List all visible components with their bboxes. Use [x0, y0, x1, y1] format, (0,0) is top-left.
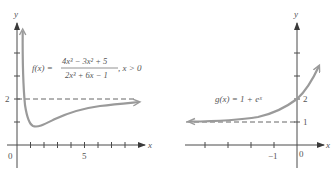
f-condition: , x > 0: [118, 63, 142, 73]
left-x-tick-5-label: 5: [82, 151, 87, 161]
g-function-label: g(x) = 1 + eˣ: [215, 94, 262, 104]
right-y-axis-label: y: [293, 9, 298, 19]
f-numerator: 4x³ − 3x² + 5: [62, 56, 107, 66]
right-graph: y x 0 −1 1 2 g(x) = 1 + eˣ: [185, 9, 330, 168]
left-graph: y x 0 5 2 f(x) = 4x³ − 3x² + 5 2x³ + 6x …: [5, 9, 152, 168]
right-y-tick-2-label: 2: [303, 94, 308, 104]
left-origin-label: 0: [8, 151, 13, 161]
f-function-label: f(x) = 4x³ − 3x² + 5 2x³ + 6x − 1 , x > …: [32, 56, 142, 80]
left-x-axis-label: x: [147, 140, 152, 150]
right-x-axis-label: x: [325, 140, 330, 150]
f-name: f(x) =: [32, 63, 53, 73]
right-y-tick-1-label: 1: [303, 117, 308, 127]
left-y-tick-2-label: 2: [5, 94, 10, 104]
right-origin-label: 0: [299, 149, 304, 159]
graphs-canvas: y x 0 5 2 f(x) = 4x³ − 3x² + 5 2x³ + 6x …: [0, 0, 334, 175]
f-denominator: 2x³ + 6x − 1: [65, 70, 108, 80]
right-x-tick-neg1-label: −1: [268, 151, 278, 161]
left-y-axis-label: y: [13, 9, 18, 19]
